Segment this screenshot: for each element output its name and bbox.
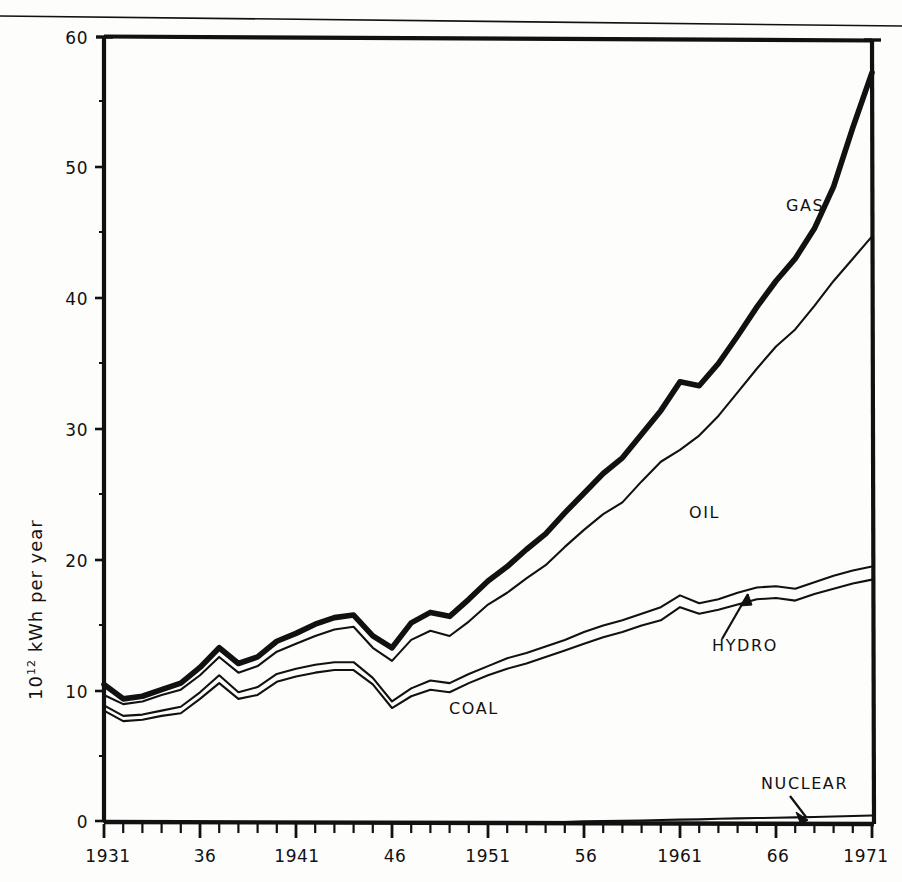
series-label-nuclear: NUCLEAR	[761, 774, 848, 793]
y-tick-label-50: 50	[65, 158, 88, 178]
x-tick-label-1931: 1931	[85, 846, 130, 866]
x-axis-ticks	[104, 824, 872, 838]
series-label-oil: OIL	[689, 503, 720, 522]
x-tick-label-1951: 1951	[465, 846, 510, 866]
y-tick-label-0: 0	[77, 812, 88, 832]
y-tick-label-40: 40	[65, 289, 88, 309]
y-axis-title-exponent: 12	[25, 659, 38, 675]
series-label-coal: COAL	[449, 699, 499, 718]
y-tick-label-10: 10	[65, 682, 88, 702]
page-top-rule	[0, 16, 902, 26]
y-axis-tick-labels: 60 50 40 30 20 10 0	[65, 28, 88, 832]
series-line-nuclear	[104, 815, 872, 822]
nuclear-leader-arrow	[790, 796, 808, 825]
right-axis-line	[872, 40, 874, 824]
x-tick-label-1961: 1961	[657, 846, 702, 866]
series-annotations: GAS OIL HYDRO COAL NUCLEAR	[449, 196, 848, 825]
hydro-leader-arrow	[722, 594, 752, 639]
y-axis-title-prefix: 10	[25, 675, 46, 700]
y-tick-label-20: 20	[65, 551, 88, 571]
y-tick-label-60: 60	[65, 28, 88, 48]
x-tick-label-1971: 1971	[843, 846, 888, 866]
stacked-area-chart: 60 50 40 30 20 10 0 1931 36 1941 46 1951…	[0, 0, 902, 882]
x-tick-label-56: 56	[575, 846, 598, 866]
plot-top-border	[104, 37, 872, 41]
x-tick-label-66: 66	[767, 846, 790, 866]
y-axis-title: 1012 kWh per year	[25, 519, 46, 700]
x-axis-tick-labels: 1931 36 1941 46 1951 56 1961 66 1971	[85, 846, 888, 866]
series-label-gas: GAS	[786, 196, 824, 215]
x-tick-label-1941: 1941	[274, 846, 319, 866]
x-tick-label-36: 36	[194, 846, 217, 866]
y-tick-label-30: 30	[65, 420, 88, 440]
x-tick-label-46: 46	[384, 846, 407, 866]
energy-consumption-figure: 60 50 40 30 20 10 0 1931 36 1941 46 1951…	[0, 0, 902, 882]
svg-text:1012 kWh per year: 1012 kWh per year	[25, 519, 46, 700]
y-axis-title-main: kWh per year	[25, 519, 46, 652]
